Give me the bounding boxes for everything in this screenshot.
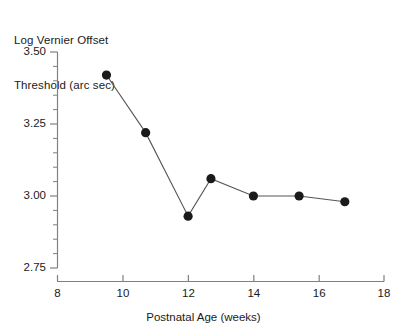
- chart-figure: Log Vernier Offset Threshold (arc sec): [0, 0, 407, 333]
- data-point: [184, 212, 193, 221]
- x-tick-label-14: 14: [239, 287, 269, 299]
- x-axis-title: Postnatal Age (weeks): [0, 311, 407, 323]
- x-tick-label-18: 18: [369, 287, 399, 299]
- data-point: [102, 70, 111, 79]
- data-line-series-1: [106, 75, 344, 216]
- x-tick-label-8: 8: [43, 287, 73, 299]
- y-tick-label-3-00: 3.00: [12, 189, 46, 201]
- x-tick-label-16: 16: [304, 287, 334, 299]
- data-point: [141, 128, 150, 137]
- data-point: [340, 197, 349, 206]
- data-point: [206, 174, 215, 183]
- y-tick-label-3-50: 3.50: [12, 45, 46, 57]
- x-tick-label-12: 12: [173, 287, 203, 299]
- y-tick-label-2-75: 2.75: [12, 261, 46, 273]
- x-tick-label-10: 10: [108, 287, 138, 299]
- data-point: [249, 191, 258, 200]
- data-point: [295, 191, 304, 200]
- y-tick-label-3-25: 3.25: [12, 117, 46, 129]
- plot-area: [0, 0, 407, 333]
